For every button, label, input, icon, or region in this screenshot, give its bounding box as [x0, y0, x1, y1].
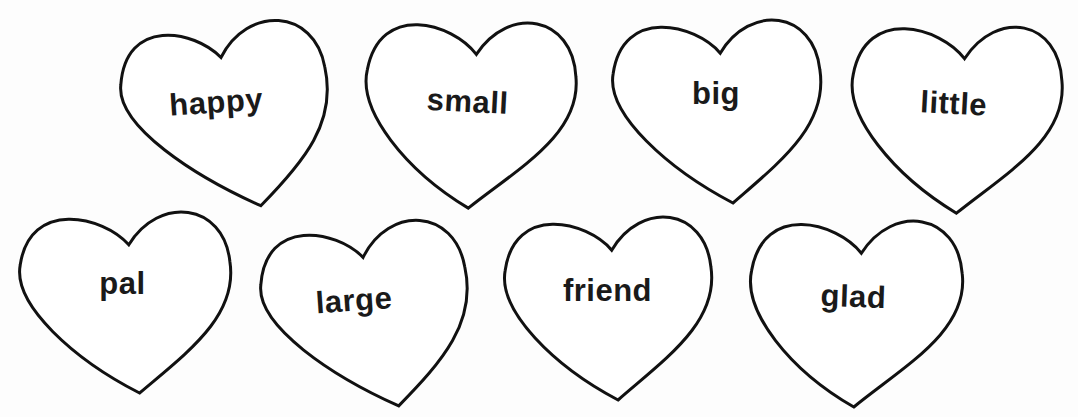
- heart-card: little: [843, 17, 1067, 219]
- heart-card: small: [357, 13, 581, 214]
- worksheet: happysmallbiglittlepallargefriendglad: [0, 0, 1078, 417]
- heart-card: pal: [17, 210, 232, 393]
- heart-word: pal: [15, 266, 230, 302]
- heart-card: big: [610, 18, 822, 203]
- heart-word: glad: [745, 275, 962, 319]
- heart-card: glad: [744, 213, 966, 410]
- heart-word: big: [610, 76, 822, 112]
- heart-card: friend: [502, 215, 713, 400]
- heart-card: large: [254, 215, 476, 415]
- heart-card: happy: [114, 15, 336, 215]
- heart-word: friend: [502, 273, 713, 309]
